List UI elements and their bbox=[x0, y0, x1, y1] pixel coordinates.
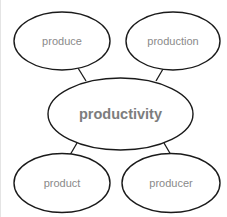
word-web-diagram: produce production productivity product … bbox=[0, 0, 227, 217]
node-product: product bbox=[14, 154, 110, 213]
node-label: producer bbox=[149, 177, 193, 189]
node-label: product bbox=[44, 177, 81, 189]
node-produce: produce bbox=[14, 12, 110, 70]
node-productivity: productivity bbox=[48, 78, 193, 150]
center-label: productivity bbox=[79, 106, 162, 122]
node-label: production bbox=[147, 35, 198, 47]
connector-production bbox=[156, 69, 163, 81]
connector-product bbox=[70, 143, 77, 155]
node-producer: producer bbox=[122, 154, 220, 213]
node-label: produce bbox=[42, 35, 82, 47]
node-production: production bbox=[126, 12, 220, 70]
connector-produce bbox=[78, 68, 86, 81]
